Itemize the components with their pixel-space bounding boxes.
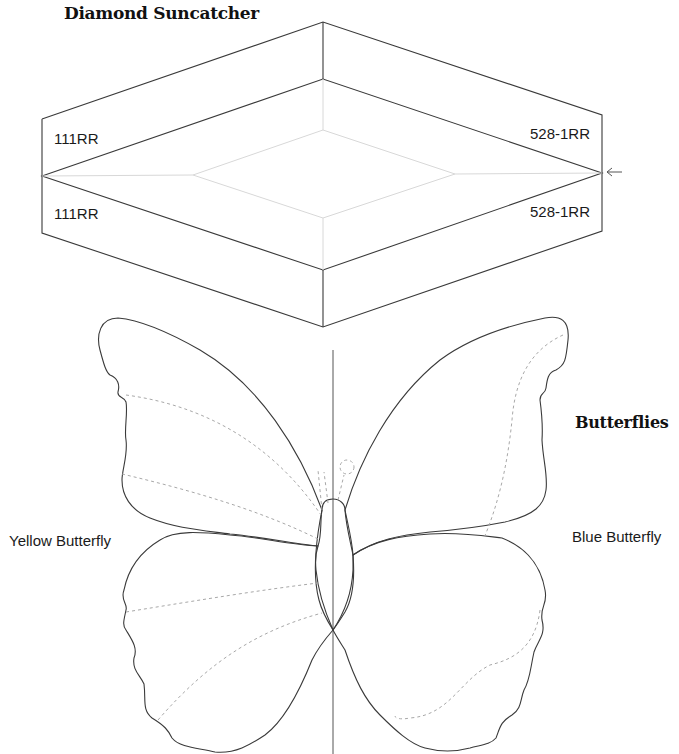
antenna-circle-marker [340,460,354,474]
left-antenna-2 [324,472,328,503]
diamond-inner-left-line [42,175,193,176]
right-antenna [338,475,344,500]
diamond-inner-right-line [455,173,602,174]
diamond-label-bottom-left: 111RR [54,205,98,222]
pattern-sheet: Diamond Suncatcher [0,0,679,754]
diamond-label-top-right: 528-1RR [530,125,590,142]
upper-right-wing [345,317,568,555]
lower-left-wing [123,533,333,753]
lower-left-vein-1 [126,583,318,612]
diamond-label-top-left: 111RR [54,130,98,147]
left-arrow-icon [607,168,622,176]
diamond-label-bottom-right: 528-1RR [530,203,590,220]
upper-left-wing [99,318,322,546]
upper-right-vein [484,335,563,538]
lower-right-vein [395,610,540,719]
diamond-middle [42,79,602,270]
lower-right-wing [333,533,546,751]
blue-butterfly-label: Blue Butterfly [572,528,661,545]
butterfly-diagram [99,317,569,754]
diamond-inner [193,130,455,218]
yellow-butterfly-label: Yellow Butterfly [9,532,111,549]
butterflies-title: Butterflies [575,413,668,432]
diamond-outer-edge [42,22,602,327]
diamond-diagram [0,0,679,754]
upper-left-vein-2 [122,474,320,540]
upper-left-vein-1 [126,395,321,515]
lower-left-vein-2 [158,613,322,720]
